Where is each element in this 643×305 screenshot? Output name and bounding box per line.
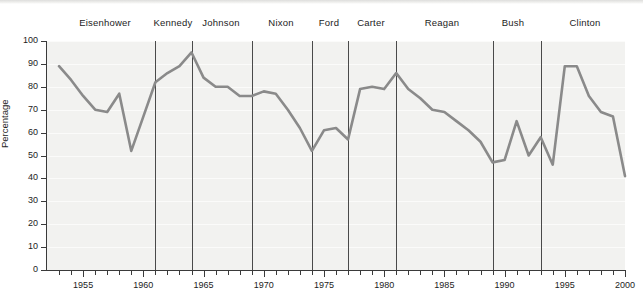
x-tick-mark-minor — [119, 271, 120, 275]
president-label-johnson: Johnson — [202, 17, 239, 28]
x-tick-mark-minor — [396, 271, 397, 275]
x-tick-mark-major — [625, 271, 626, 277]
x-tick-label: 1980 — [369, 280, 399, 290]
x-tick-mark-minor — [517, 271, 518, 275]
x-tick-mark-minor — [216, 271, 217, 275]
x-tick-label: 1995 — [550, 280, 580, 290]
x-tick-mark-minor — [155, 271, 156, 275]
y-tick-label: 100 — [16, 35, 38, 45]
x-tick-mark-minor — [167, 271, 168, 275]
president-label-nixon: Nixon — [268, 17, 293, 28]
x-tick-label: 1960 — [128, 280, 158, 290]
y-tick-label: 40 — [16, 172, 38, 182]
x-tick-mark-major — [565, 271, 566, 277]
scan-artifact-strip — [0, 0, 643, 4]
x-tick-mark-minor — [456, 271, 457, 275]
x-tick-mark-minor — [372, 271, 373, 275]
x-tick-label: 1975 — [309, 280, 339, 290]
x-tick-mark-minor — [276, 271, 277, 275]
x-tick-mark-major — [83, 271, 84, 277]
x-tick-mark-major — [505, 271, 506, 277]
x-tick-label: 1970 — [249, 280, 279, 290]
x-tick-mark-minor — [553, 271, 554, 275]
x-axis-line — [46, 270, 626, 271]
x-tick-label: 1955 — [68, 280, 98, 290]
y-tick-label: 60 — [16, 127, 38, 137]
plot-area — [47, 41, 625, 270]
president-label-reagan: Reagan — [425, 17, 459, 28]
x-tick-mark-minor — [252, 271, 253, 275]
y-tick-label: 70 — [16, 104, 38, 114]
x-tick-mark-minor — [228, 271, 229, 275]
x-tick-mark-major — [204, 271, 205, 277]
x-tick-label: 1990 — [490, 280, 520, 290]
y-tick-label: 10 — [16, 241, 38, 251]
x-tick-mark-minor — [601, 271, 602, 275]
y-tick-label: 80 — [16, 81, 38, 91]
x-tick-mark-minor — [240, 271, 241, 275]
y-tick-label: 90 — [16, 58, 38, 68]
x-tick-mark-major — [444, 271, 445, 277]
x-tick-mark-minor — [468, 271, 469, 275]
x-tick-mark-minor — [529, 271, 530, 275]
x-tick-label: 1985 — [429, 280, 459, 290]
x-tick-mark-minor — [288, 271, 289, 275]
x-tick-mark-minor — [336, 271, 337, 275]
x-tick-mark-minor — [179, 271, 180, 275]
x-tick-mark-minor — [348, 271, 349, 275]
president-label-kennedy: Kennedy — [154, 17, 193, 28]
x-tick-mark-minor — [541, 271, 542, 275]
x-tick-mark-minor — [95, 271, 96, 275]
chart-container: Percentage 0102030405060708090100 195519… — [0, 0, 643, 305]
y-tick-label: 20 — [16, 218, 38, 228]
y-tick-label: 30 — [16, 195, 38, 205]
y-tick-label: 0 — [16, 264, 38, 274]
x-tick-mark-minor — [59, 271, 60, 275]
x-tick-label: 2000 — [610, 280, 640, 290]
series-path — [59, 52, 625, 176]
x-tick-mark-minor — [360, 271, 361, 275]
x-tick-mark-minor — [577, 271, 578, 275]
x-tick-mark-major — [324, 271, 325, 277]
y-axis-title: Percentage — [0, 99, 10, 148]
x-tick-mark-minor — [131, 271, 132, 275]
x-tick-mark-minor — [192, 271, 193, 275]
x-tick-mark-minor — [300, 271, 301, 275]
x-tick-mark-minor — [107, 271, 108, 275]
x-tick-mark-minor — [420, 271, 421, 275]
x-tick-mark-minor — [613, 271, 614, 275]
x-tick-mark-major — [143, 271, 144, 277]
president-label-clinton: Clinton — [570, 17, 601, 28]
president-label-ford: Ford — [319, 17, 339, 28]
x-tick-mark-minor — [493, 271, 494, 275]
x-tick-mark-minor — [432, 271, 433, 275]
x-tick-mark-minor — [408, 271, 409, 275]
x-tick-mark-minor — [71, 271, 72, 275]
president-label-carter: Carter — [357, 17, 385, 28]
x-tick-label: 1965 — [189, 280, 219, 290]
approval-line-series — [47, 41, 625, 270]
president-label-bush: Bush — [502, 17, 524, 28]
x-tick-mark-minor — [481, 271, 482, 275]
x-tick-mark-major — [384, 271, 385, 277]
president-label-eisenhower: Eisenhower — [79, 17, 131, 28]
x-tick-mark-minor — [589, 271, 590, 275]
x-tick-mark-major — [264, 271, 265, 277]
x-tick-mark-minor — [312, 271, 313, 275]
y-tick-label: 50 — [16, 150, 38, 160]
